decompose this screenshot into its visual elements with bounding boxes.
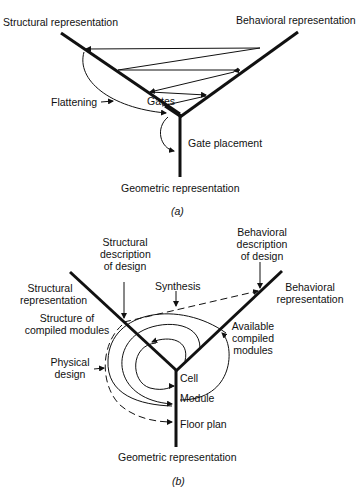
geometric-representation-label-b: Geometric representation (118, 451, 236, 463)
cell-label: Cell (180, 372, 198, 384)
behavioral-description-label: Behavioral description of design (234, 226, 290, 262)
floor-plan-label: Floor plan (180, 418, 227, 430)
structural-representation-label-a: Structural representation (3, 16, 118, 28)
structural-representation-label-b: Structural representation (20, 282, 80, 306)
synthesis-label: Synthesis (155, 280, 201, 292)
gate-placement-label: Gate placement (188, 137, 262, 149)
structural-description-label: Structural description of design (100, 236, 150, 272)
zigzag-arrows-a (86, 32, 298, 106)
module-label: Module (180, 392, 214, 404)
gate-placement-arc (160, 117, 174, 151)
available-compiled-modules-label: Available compiled modules (229, 320, 277, 356)
flattening-label: Flattening (51, 96, 97, 108)
behavioral-representation-label-b: Behavioral representation (274, 281, 346, 305)
behavioral-representation-label-a: Behavioral representation (236, 14, 356, 26)
physical-design-label: Physical design (48, 356, 92, 380)
caption-a: (a) (171, 205, 184, 217)
structure-compiled-modules-label: Structure of compiled modules (24, 312, 110, 336)
geometric-representation-label-a: Geometric representation (121, 182, 239, 194)
gates-label: Gates (147, 95, 175, 107)
caption-b: (b) (172, 475, 185, 487)
diagram-graphics (0, 0, 357, 497)
